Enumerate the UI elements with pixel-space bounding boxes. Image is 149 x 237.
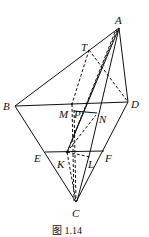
point-M bbox=[71, 103, 73, 105]
label-E: E bbox=[33, 152, 41, 164]
label-M: M bbox=[58, 108, 69, 120]
label-A: A bbox=[114, 14, 122, 26]
edge-AD bbox=[119, 28, 128, 102]
tetrahedron-diagram: A T B D M P N E F K L C 图 1.14 bbox=[0, 0, 149, 237]
dashed-MC-2 bbox=[74, 110, 76, 201]
point-K bbox=[66, 151, 68, 153]
dashed-TM bbox=[72, 50, 89, 104]
label-F: F bbox=[104, 152, 112, 164]
dashed-KL bbox=[67, 152, 90, 157]
figure-caption: 图 1.14 bbox=[52, 225, 82, 236]
label-T: T bbox=[81, 41, 88, 53]
label-B: B bbox=[3, 100, 10, 112]
label-L: L bbox=[87, 158, 94, 170]
label-C: C bbox=[72, 207, 80, 219]
edge-BC bbox=[15, 106, 76, 202]
label-K: K bbox=[56, 158, 65, 170]
label-P: P bbox=[73, 108, 81, 120]
label-D: D bbox=[130, 98, 139, 110]
label-N: N bbox=[98, 113, 107, 125]
